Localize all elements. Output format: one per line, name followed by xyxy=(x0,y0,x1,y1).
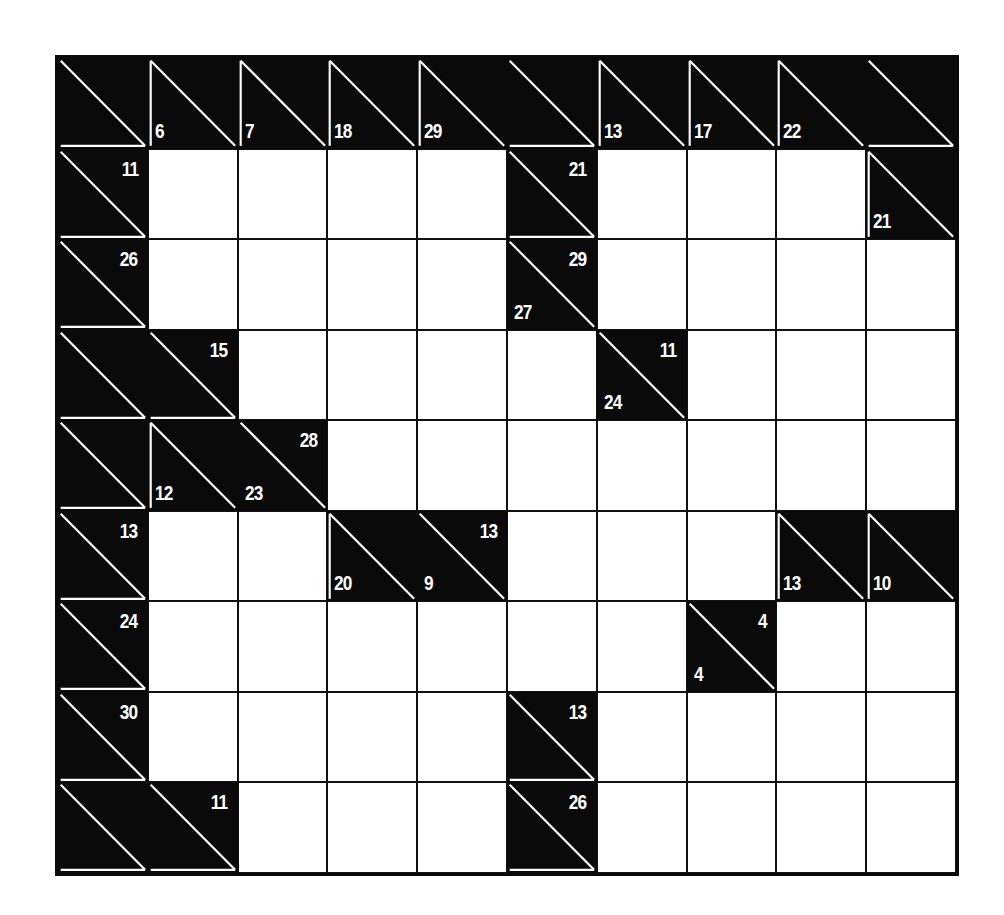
entry-cell[interactable] xyxy=(238,149,328,240)
entry-cell[interactable] xyxy=(597,782,687,873)
entry-cell[interactable] xyxy=(866,601,956,692)
down-clue: 21 xyxy=(873,210,891,231)
across-clue: 11 xyxy=(211,791,228,812)
entry-cell[interactable] xyxy=(776,330,866,421)
clue-cell: 26 xyxy=(507,782,597,873)
clue-cell xyxy=(58,330,148,421)
diagonal-divider-icon xyxy=(507,58,597,149)
entry-cell[interactable] xyxy=(776,149,866,240)
clue-cell: 1124 xyxy=(597,330,687,421)
entry-cell[interactable] xyxy=(597,239,687,330)
clue-cell: 12 xyxy=(148,420,238,511)
clue-cell: 139 xyxy=(417,511,507,602)
entry-cell[interactable] xyxy=(417,782,507,873)
clue-cell: 6 xyxy=(148,58,238,149)
entry-cell[interactable] xyxy=(507,420,597,511)
entry-cell[interactable] xyxy=(597,511,687,602)
entry-cell[interactable] xyxy=(327,239,417,330)
entry-cell[interactable] xyxy=(687,149,777,240)
diagonal-divider-icon xyxy=(58,782,148,873)
clue-cell: 22 xyxy=(776,58,866,149)
entry-cell[interactable] xyxy=(687,511,777,602)
clue-cell: 21 xyxy=(866,149,956,240)
entry-cell[interactable] xyxy=(327,330,417,421)
down-clue: 13 xyxy=(783,572,801,593)
clue-cell: 13 xyxy=(597,58,687,149)
entry-cell[interactable] xyxy=(597,149,687,240)
entry-cell[interactable] xyxy=(238,782,328,873)
entry-cell[interactable] xyxy=(148,692,238,783)
entry-cell[interactable] xyxy=(238,239,328,330)
entry-cell[interactable] xyxy=(776,420,866,511)
entry-cell[interactable] xyxy=(327,692,417,783)
entry-cell[interactable] xyxy=(597,601,687,692)
entry-cell[interactable] xyxy=(417,601,507,692)
entry-cell[interactable] xyxy=(597,692,687,783)
across-clue: 28 xyxy=(300,429,318,450)
entry-cell[interactable] xyxy=(776,239,866,330)
clue-cell: 21 xyxy=(507,149,597,240)
entry-cell[interactable] xyxy=(507,330,597,421)
clue-cell: 44 xyxy=(687,601,777,692)
entry-cell[interactable] xyxy=(866,420,956,511)
clue-cell: 24 xyxy=(58,601,148,692)
clue-cell: 11 xyxy=(58,149,148,240)
clue-cell: 11 xyxy=(148,782,238,873)
across-clue: 4 xyxy=(758,610,767,631)
down-clue: 9 xyxy=(424,572,433,593)
diagonal-divider-icon xyxy=(58,330,148,421)
across-clue: 29 xyxy=(569,248,587,269)
down-clue: 17 xyxy=(694,120,712,141)
entry-cell[interactable] xyxy=(327,782,417,873)
down-clue: 29 xyxy=(424,120,442,141)
entry-cell[interactable] xyxy=(687,782,777,873)
entry-cell[interactable] xyxy=(238,511,328,602)
clue-cell: 29 xyxy=(417,58,507,149)
entry-cell[interactable] xyxy=(238,601,328,692)
entry-cell[interactable] xyxy=(148,149,238,240)
entry-cell[interactable] xyxy=(238,692,328,783)
across-clue: 15 xyxy=(210,339,228,360)
entry-cell[interactable] xyxy=(327,149,417,240)
entry-cell[interactable] xyxy=(687,692,777,783)
clue-cell: 26 xyxy=(58,239,148,330)
entry-cell[interactable] xyxy=(866,692,956,783)
entry-cell[interactable] xyxy=(507,511,597,602)
clue-cell xyxy=(58,420,148,511)
entry-cell[interactable] xyxy=(687,239,777,330)
entry-cell[interactable] xyxy=(148,239,238,330)
entry-cell[interactable] xyxy=(417,692,507,783)
entry-cell[interactable] xyxy=(687,330,777,421)
down-clue: 24 xyxy=(604,391,622,412)
clue-cell: 7 xyxy=(238,58,328,149)
entry-cell[interactable] xyxy=(597,420,687,511)
down-clue: 6 xyxy=(155,120,164,141)
entry-cell[interactable] xyxy=(866,782,956,873)
entry-cell[interactable] xyxy=(327,601,417,692)
entry-cell[interactable] xyxy=(417,330,507,421)
diagonal-divider-icon xyxy=(866,58,956,149)
entry-cell[interactable] xyxy=(776,692,866,783)
down-clue: 23 xyxy=(245,482,263,503)
entry-cell[interactable] xyxy=(776,601,866,692)
entry-cell[interactable] xyxy=(687,420,777,511)
clue-cell: 15 xyxy=(148,330,238,421)
entry-cell[interactable] xyxy=(417,420,507,511)
entry-cell[interactable] xyxy=(238,330,328,421)
entry-cell[interactable] xyxy=(776,782,866,873)
down-clue: 27 xyxy=(514,301,532,322)
across-clue: 21 xyxy=(569,158,587,179)
entry-cell[interactable] xyxy=(507,601,597,692)
across-clue: 11 xyxy=(660,339,677,360)
entry-cell[interactable] xyxy=(417,239,507,330)
entry-cell[interactable] xyxy=(148,511,238,602)
clue-cell: 13 xyxy=(776,511,866,602)
entry-cell[interactable] xyxy=(866,239,956,330)
entry-cell[interactable] xyxy=(148,601,238,692)
entry-cell[interactable] xyxy=(866,330,956,421)
entry-cell[interactable] xyxy=(327,420,417,511)
down-clue: 12 xyxy=(155,482,173,503)
entry-cell[interactable] xyxy=(417,149,507,240)
clue-cell: 2927 xyxy=(507,239,597,330)
down-clue: 20 xyxy=(334,572,352,593)
